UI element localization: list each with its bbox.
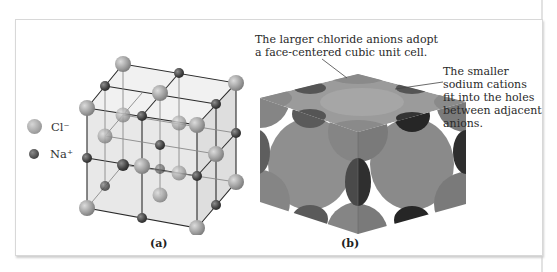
- callout-anions-line2: a face-centered cubic unit cell.: [255, 46, 438, 59]
- callout-cations-line1: The smaller: [443, 65, 542, 78]
- callout-sodium-cations: The smaller sodium cations fit into the …: [443, 65, 542, 130]
- panel-b-label: (b): [341, 237, 359, 250]
- callout-cations-line5: anions.: [443, 117, 542, 130]
- callout-cations-line3: fit into the holes: [443, 91, 542, 104]
- callout-cations-line2: sodium cations: [443, 78, 542, 91]
- callout-cations-line4: between adjacent: [443, 104, 542, 117]
- callout-chloride-anions: The larger chloride anions adopt a face-…: [255, 33, 438, 59]
- callout-anions-line1: The larger chloride anions adopt: [255, 33, 438, 46]
